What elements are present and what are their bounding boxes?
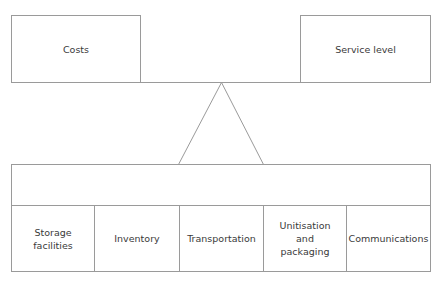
- communications-label: Communications: [349, 232, 429, 245]
- cell-unitisation-packaging: Unitisation and packaging: [264, 206, 346, 271]
- components-header-strip: [12, 165, 430, 205]
- cell-transportation: Transportation: [180, 206, 263, 271]
- cell-storage-facilities: Storage facilities: [12, 206, 94, 271]
- costs-box: Costs: [12, 16, 140, 82]
- logistics-tradeoff-diagram: Costs Service level Storage facilities I…: [0, 0, 443, 282]
- storage-facilities-label: Storage facilities: [33, 226, 72, 252]
- inventory-label: Inventory: [114, 232, 159, 245]
- transportation-label: Transportation: [187, 232, 256, 245]
- cell-inventory: Inventory: [95, 206, 179, 271]
- unitisation-packaging-label: Unitisation and packaging: [280, 219, 331, 258]
- cell-communications: Communications: [347, 206, 430, 271]
- fulcrum-triangle: [179, 83, 264, 165]
- costs-label: Costs: [63, 43, 89, 56]
- service-level-label: Service level: [335, 43, 396, 56]
- service-level-box: Service level: [301, 16, 430, 82]
